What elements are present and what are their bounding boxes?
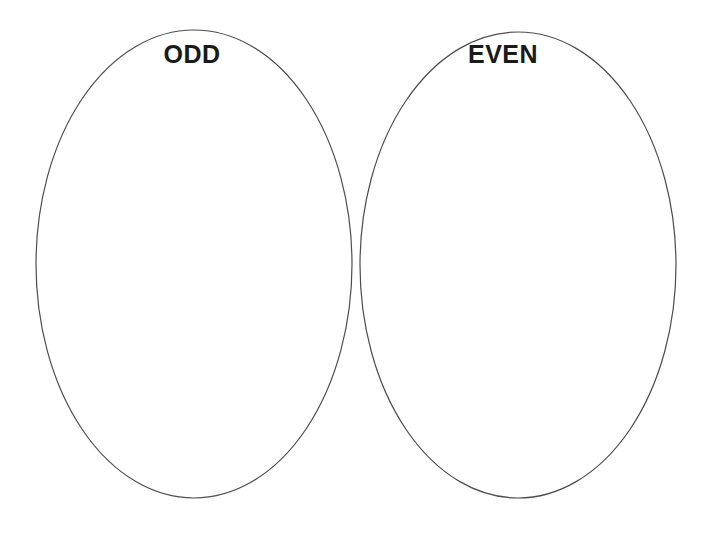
ovals-canvas — [0, 0, 714, 541]
odd-oval-dropzone[interactable] — [36, 30, 352, 498]
even-oval-label: EVEN — [468, 42, 538, 67]
odd-oval-label: ODD — [163, 42, 220, 67]
even-oval-dropzone[interactable] — [360, 32, 676, 498]
sorting-worksheet: ODD EVEN — [0, 0, 714, 541]
